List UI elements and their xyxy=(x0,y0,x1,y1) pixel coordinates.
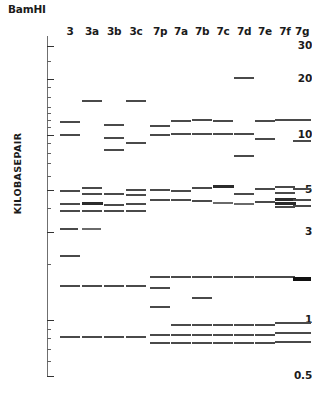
band xyxy=(82,193,102,195)
band xyxy=(255,342,275,344)
band xyxy=(104,210,124,212)
lane-3b xyxy=(104,36,124,376)
y-tick-minor xyxy=(47,208,51,209)
band xyxy=(293,119,311,121)
y-tick-major xyxy=(47,135,54,136)
band xyxy=(275,206,295,208)
lane-7a xyxy=(171,36,191,376)
band xyxy=(275,119,295,121)
lane-7g xyxy=(293,36,311,376)
band xyxy=(293,205,311,207)
band xyxy=(213,185,234,188)
band xyxy=(171,276,191,278)
band xyxy=(82,210,102,212)
enzyme-title: BamHI xyxy=(8,3,46,15)
y-tick-major xyxy=(47,376,54,377)
band xyxy=(192,324,212,326)
band xyxy=(234,324,254,326)
band xyxy=(104,149,124,151)
band xyxy=(275,186,295,188)
band xyxy=(60,134,80,136)
lane-7p xyxy=(150,36,170,376)
band xyxy=(192,119,212,121)
y-tick-minor xyxy=(47,143,51,144)
band xyxy=(213,324,233,326)
y-tick-minor xyxy=(47,329,51,330)
band xyxy=(60,336,80,338)
band xyxy=(150,287,170,289)
band xyxy=(171,334,191,336)
band xyxy=(192,276,212,278)
band xyxy=(234,276,254,278)
band xyxy=(126,210,146,212)
y-tick-minor xyxy=(47,120,51,121)
band xyxy=(171,133,191,135)
band xyxy=(60,203,80,205)
band xyxy=(60,210,80,212)
band xyxy=(213,202,233,204)
band xyxy=(255,188,275,190)
band xyxy=(192,342,212,344)
band xyxy=(213,120,233,122)
lane-3 xyxy=(60,36,80,376)
y-axis-title: KILOBASEPAIR xyxy=(12,114,23,234)
band xyxy=(126,203,146,205)
band xyxy=(192,334,212,336)
band xyxy=(234,342,254,344)
y-tick-minor xyxy=(47,127,51,128)
band xyxy=(126,336,146,338)
band xyxy=(255,334,275,336)
y-tick-minor xyxy=(47,61,51,62)
band xyxy=(192,133,212,135)
band xyxy=(82,285,102,287)
band xyxy=(293,277,311,281)
y-tick-minor xyxy=(47,163,51,164)
band xyxy=(82,336,102,338)
y-tick-minor xyxy=(47,87,51,88)
y-tick-minor xyxy=(47,153,51,154)
lane-7e xyxy=(255,36,275,376)
band xyxy=(82,228,101,230)
y-tick-minor xyxy=(47,97,51,98)
band xyxy=(150,125,170,127)
band xyxy=(234,334,254,336)
y-tick-minor xyxy=(47,176,51,177)
band xyxy=(150,334,170,336)
lane-3c xyxy=(126,36,146,376)
band xyxy=(60,228,78,230)
band xyxy=(104,204,124,206)
band xyxy=(60,285,80,287)
lane-7f xyxy=(275,36,295,376)
band xyxy=(126,189,146,191)
band xyxy=(82,100,102,102)
y-tick-minor xyxy=(47,107,51,108)
band xyxy=(275,276,295,278)
band xyxy=(171,199,191,201)
y-tick-minor xyxy=(47,264,51,265)
y-tick-major xyxy=(47,320,54,321)
band xyxy=(293,140,311,142)
y-tick-major xyxy=(47,46,54,47)
band xyxy=(234,77,254,79)
band xyxy=(293,341,311,343)
band xyxy=(104,124,124,126)
band xyxy=(126,194,146,196)
band xyxy=(82,202,103,205)
band xyxy=(82,187,102,189)
band xyxy=(171,120,191,122)
band xyxy=(234,133,254,135)
band xyxy=(171,342,191,344)
band xyxy=(275,192,295,194)
y-tick-major xyxy=(47,190,54,191)
band xyxy=(171,324,191,326)
band xyxy=(104,336,124,338)
band xyxy=(150,276,170,278)
band xyxy=(213,133,233,135)
band xyxy=(293,188,311,190)
band xyxy=(60,121,80,123)
band xyxy=(104,285,124,287)
band xyxy=(255,324,275,326)
band xyxy=(150,306,170,308)
band xyxy=(234,155,254,157)
band xyxy=(192,187,212,189)
